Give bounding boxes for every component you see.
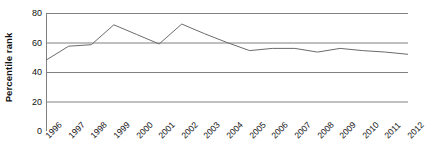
- y-axis-title-label: Percentile rank: [4, 33, 15, 103]
- y-tick-label-20: 20: [16, 97, 42, 106]
- x-tick-label-2012: 2012: [406, 120, 426, 140]
- y-tick-label-40: 40: [16, 68, 42, 77]
- x-axis-tick-labels: 1996199719981999200020012002200320042005…: [46, 131, 408, 163]
- y-tick-label-60: 60: [16, 38, 42, 47]
- gridlines: [46, 14, 408, 132]
- plot-area: [46, 13, 408, 131]
- series-line-percentile-rank: [46, 24, 408, 60]
- y-tick-label-0: 0: [16, 127, 42, 136]
- y-axis-tick-labels: 806040200: [16, 0, 42, 163]
- plot-svg: [46, 13, 408, 131]
- y-tick-label-80: 80: [16, 9, 42, 18]
